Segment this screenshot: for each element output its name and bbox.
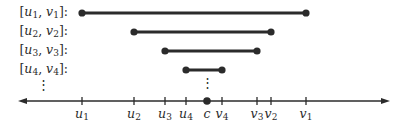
interval-label-4: [u4, v4]:	[19, 63, 68, 77]
interval-left-endpoint	[161, 47, 168, 54]
tick-label-u3: u3	[158, 108, 172, 122]
tick-label-v3: v3	[251, 108, 264, 122]
tick-label-u4: u4	[179, 108, 193, 122]
ellipsis-left: ⋮	[37, 79, 50, 92]
tick-label-u2: u2	[127, 108, 141, 122]
interval-right-endpoint	[302, 9, 309, 16]
interval-label-3: [u3, v3]:	[19, 44, 68, 58]
interval-right-endpoint	[218, 66, 225, 73]
interval-left-endpoint	[78, 9, 85, 16]
tick-label-v1: v1	[300, 108, 313, 122]
tick-label-u1: u1	[75, 108, 89, 122]
ellipsis-center: ⋮	[201, 77, 214, 90]
interval-left-endpoint	[182, 66, 189, 73]
tick-label-v2: v2	[265, 108, 278, 122]
interval-right-endpoint	[253, 47, 260, 54]
left-arrow-icon	[18, 98, 27, 104]
interval-right-endpoint	[267, 28, 274, 35]
tick-label-c: c	[203, 108, 210, 121]
interval-label-2: [u2, v2]:	[19, 25, 68, 39]
tick-label-v4: v4	[216, 108, 229, 122]
interval-label-1: [u1, v1]:	[19, 6, 68, 20]
interval-left-endpoint	[130, 28, 137, 35]
right-arrow-icon	[381, 98, 390, 104]
point-c	[203, 97, 211, 105]
